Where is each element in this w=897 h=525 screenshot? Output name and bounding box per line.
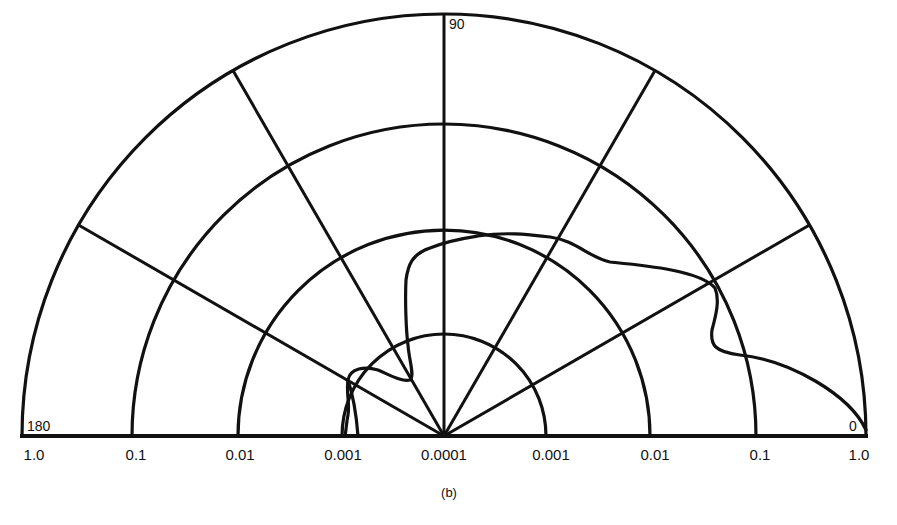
tick-label: 0.1	[750, 446, 771, 463]
tick-label: 0.01	[640, 446, 669, 463]
angle-label-0: 0	[849, 418, 857, 434]
tick-label: 0.01	[225, 446, 254, 463]
tick-label: 0.001	[324, 446, 362, 463]
angle-label-180: 180	[27, 418, 50, 434]
tick-label: 0.0001	[421, 446, 467, 463]
tick-label: 1.0	[849, 446, 870, 463]
tick-label: 0.1	[126, 446, 147, 463]
angle-label-90: 90	[449, 16, 465, 32]
subfigure-label: (b)	[441, 485, 457, 500]
tick-label: 1.0	[24, 446, 45, 463]
tick-label: 0.001	[532, 446, 570, 463]
